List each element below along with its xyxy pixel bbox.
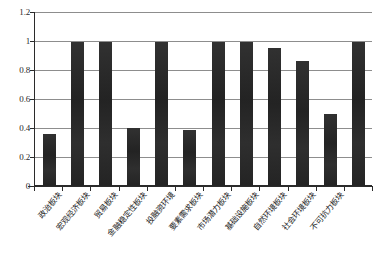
bar [324,114,337,186]
bar [155,42,168,186]
y-tick-label: 1 [4,37,30,46]
y-tick-label: 1.2 [4,8,30,17]
x-axis-label: 政治板块 [37,190,64,220]
bars-layer [35,12,372,186]
y-tick-label: 0.8 [4,66,30,75]
y-tick-label: 0.4 [4,124,30,133]
bar [43,134,56,186]
bar [71,42,84,186]
bar-chart: 1.2 1 0.8 0.6 0.4 0.2 0 政治板块宏观经济板块贸易板块金融… [0,0,378,261]
y-tick-label: 0.6 [4,95,30,104]
plot-area [34,12,372,186]
x-axis-labels: 政治板块宏观经济板块贸易板块金融稳定性板块投融资环境要素需求板块市场潜力板块基础… [0,186,378,261]
y-tick-label: 0.2 [4,153,30,162]
bar [127,128,140,186]
bar [240,42,253,186]
bar [212,42,225,186]
bar [268,48,281,186]
bar [352,42,365,186]
bar [183,130,196,186]
x-axis-label: 贸易板块 [93,190,120,220]
bar [296,61,309,186]
bar [99,42,112,186]
